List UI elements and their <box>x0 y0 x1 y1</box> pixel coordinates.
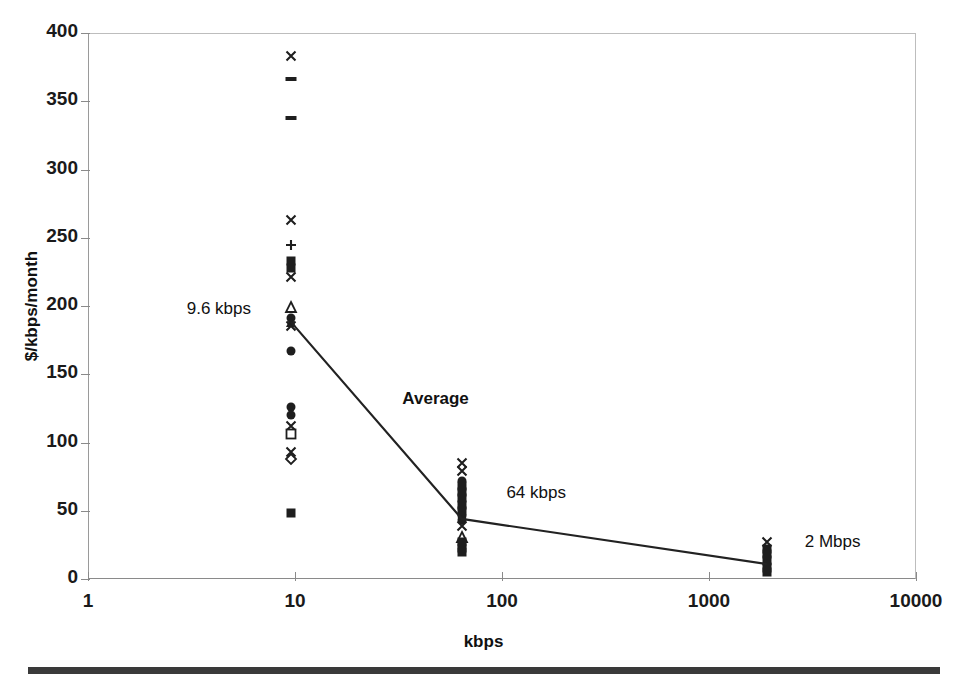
chart-annotation: 2 Mbps <box>805 532 861 552</box>
y-tick-label: 300 <box>16 157 78 179</box>
data-point-marker <box>285 452 298 465</box>
data-point-marker <box>285 320 298 333</box>
x-tick-mark <box>916 572 917 581</box>
chart-annotation: Average <box>402 389 468 409</box>
data-point-marker <box>285 271 298 284</box>
chart-annotation: 64 kbps <box>506 483 566 503</box>
y-tick-mark <box>81 101 90 102</box>
y-tick-mark <box>81 374 90 375</box>
x-tick-label: 100 <box>486 590 518 612</box>
y-tick-label: 50 <box>16 498 78 520</box>
y-tick-mark <box>81 511 90 512</box>
y-axis-title: $/kbps/month <box>22 196 42 416</box>
data-point-marker <box>285 238 298 251</box>
y-tick-label: 100 <box>16 430 78 452</box>
x-tick-mark <box>295 572 296 581</box>
footer-rule <box>28 667 940 674</box>
data-point-marker <box>285 76 298 82</box>
y-tick-label: 350 <box>16 88 78 110</box>
y-tick-mark <box>81 306 90 307</box>
x-tick-label: 1 <box>83 590 94 612</box>
x-tick-mark <box>88 572 89 581</box>
chart-annotation: 9.6 kbps <box>187 299 251 319</box>
data-point-marker <box>760 566 773 579</box>
data-point-marker <box>285 115 298 121</box>
y-tick-label: 400 <box>16 20 78 42</box>
x-tick-label: 10 <box>284 590 305 612</box>
y-tick-mark <box>81 443 90 444</box>
chart-figure: 050100150200250300350400 110100100010000… <box>0 0 967 683</box>
x-tick-label: 1000 <box>688 590 730 612</box>
y-tick-label: 0 <box>16 566 78 588</box>
data-point-marker <box>285 345 298 358</box>
data-point-marker <box>285 214 298 227</box>
x-tick-label: 10000 <box>890 590 943 612</box>
x-tick-mark <box>709 572 710 581</box>
y-tick-mark <box>81 238 90 239</box>
y-tick-mark <box>81 170 90 171</box>
data-point-marker <box>455 545 468 558</box>
data-point-marker <box>285 50 298 63</box>
data-point-marker <box>285 507 298 520</box>
y-tick-mark <box>81 33 90 34</box>
x-axis-title: kbps <box>0 632 967 652</box>
data-point-marker <box>285 428 298 441</box>
x-tick-mark <box>502 572 503 581</box>
